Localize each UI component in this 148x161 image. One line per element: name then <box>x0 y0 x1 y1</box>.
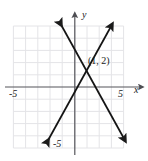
x-tick-negative-5: -5 <box>9 88 17 99</box>
line-increasing <box>48 25 112 141</box>
coordinate-plane <box>0 0 148 161</box>
x-axis-label: x <box>134 84 138 95</box>
y-tick-negative-5: -5 <box>53 138 61 149</box>
x-tick-positive-5: 5 <box>118 88 123 99</box>
figure-container: y x -5 5 -5 (1, 2) <box>0 0 148 161</box>
line-decreasing <box>61 25 125 141</box>
y-axis-label: y <box>82 9 86 20</box>
graph-svg <box>0 0 148 161</box>
intersection-point-label: (1, 2) <box>88 55 110 66</box>
